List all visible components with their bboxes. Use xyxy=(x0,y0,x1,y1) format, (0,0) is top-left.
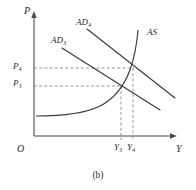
price-high-tick-label: P4 xyxy=(13,62,22,71)
y-axis-label: P xyxy=(24,6,30,16)
as-curve-label: AS xyxy=(147,28,157,37)
ad4-curve-label-sub: 4 xyxy=(88,22,91,28)
as-curve-label-base: AS xyxy=(147,27,157,37)
ad4-curve-label: AD4 xyxy=(76,18,91,27)
ad3-curve-label-sub: 3 xyxy=(63,40,66,46)
ad3-curve-label: AD3 xyxy=(51,36,66,45)
ad-as-figure: P Y O AS AD4 AD3 P4 P3 Y3 Y4 (b) xyxy=(0,0,196,190)
price-low-tick-base: P xyxy=(13,78,19,88)
price-high-tick-base: P xyxy=(13,61,19,71)
figure-caption: (b) xyxy=(0,170,196,180)
output-high-tick-label: Y4 xyxy=(127,143,135,152)
price-high-tick-sub: 4 xyxy=(19,66,22,72)
ad4-curve-label-base: AD xyxy=(76,17,88,27)
price-low-tick-sub: 3 xyxy=(19,83,22,89)
output-low-tick-sub: 3 xyxy=(119,147,122,153)
chart-canvas xyxy=(0,0,196,190)
ad3-curve xyxy=(62,48,160,110)
output-high-tick-sub: 4 xyxy=(132,147,135,153)
y-axis-arrowhead xyxy=(31,11,36,18)
ad4-curve xyxy=(87,29,175,98)
x-axis-arrowhead xyxy=(170,133,177,138)
x-axis-label: Y xyxy=(176,144,182,154)
output-low-tick-label: Y3 xyxy=(114,143,122,152)
price-low-tick-label: P3 xyxy=(13,79,22,88)
ad3-curve-label-base: AD xyxy=(51,35,63,45)
origin-label: O xyxy=(17,144,24,154)
